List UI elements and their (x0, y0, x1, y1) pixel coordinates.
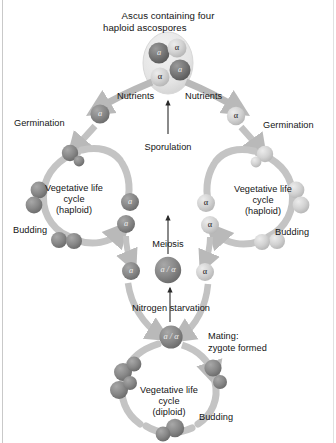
arrow-right-exit (205, 237, 210, 262)
label-veg-haploid-right-line3: (haploid) (217, 206, 309, 217)
label-veg-haploid-left-line2: cycle (28, 194, 120, 205)
figure-title-line2: haploid ascospores (103, 22, 263, 34)
label-budding-bottom: Budding (199, 412, 233, 423)
cell-diploid-budding-bottom (156, 419, 185, 442)
label-nutrients-left: Nutrients (117, 91, 154, 102)
cell-a-to-mating (122, 262, 140, 280)
figure-title-line1: Ascus containing four (88, 10, 248, 22)
label-veg-diploid-line2: cycle (123, 396, 215, 407)
cell-a-exit-1 (121, 193, 139, 211)
label-sporulation: Sporulation (128, 142, 208, 153)
diagram-graphics (0, 0, 336, 443)
ascus-spore-a-2 (170, 60, 191, 81)
cell-a-germinating (90, 104, 109, 123)
label-veg-haploid-right-line2: cycle (217, 195, 309, 206)
ascus-spore-a-1 (149, 43, 170, 64)
label-nutrients-right: Nutrients (185, 91, 222, 102)
label-budding-left: Budding (13, 225, 47, 236)
cell-alpha-germinating (227, 107, 245, 125)
arrow-germination-left (76, 126, 95, 147)
yeast-life-cycle-figure: Ascus containing four haploid ascospores… (0, 0, 336, 443)
cell-alpha-exit-2 (201, 216, 219, 234)
label-budding-right: Budding (275, 227, 309, 238)
label-nitrogen-starvation: Nitrogen starvation (114, 303, 228, 314)
label-mating-line1: Mating: (208, 331, 238, 342)
cell-alpha-to-mating (196, 263, 214, 281)
cell-a-exit-2 (117, 215, 135, 233)
cell-diploid-zygote (159, 325, 182, 348)
label-veg-diploid-line1: Vegetative life (123, 385, 215, 396)
ascus-spore-alpha-2 (151, 68, 170, 87)
label-germination-left: Germination (14, 118, 65, 129)
label-veg-haploid-left-line3: (haploid) (28, 205, 120, 216)
label-meiosis: Meiosis (138, 239, 198, 250)
label-mating-line2: zygote formed (208, 343, 267, 354)
ascus-spore-alpha-1 (168, 39, 187, 58)
arrow-left-exit (126, 236, 131, 261)
label-veg-haploid-left-line1: Vegetative life (28, 183, 120, 194)
cell-diploid-meiosis (155, 257, 181, 283)
cell-alpha-exit-1 (197, 194, 215, 212)
arrow-germination-right (241, 127, 259, 148)
label-veg-haploid-right-line1: Vegetative life (217, 184, 309, 195)
label-germination-right: Germination (263, 120, 314, 131)
